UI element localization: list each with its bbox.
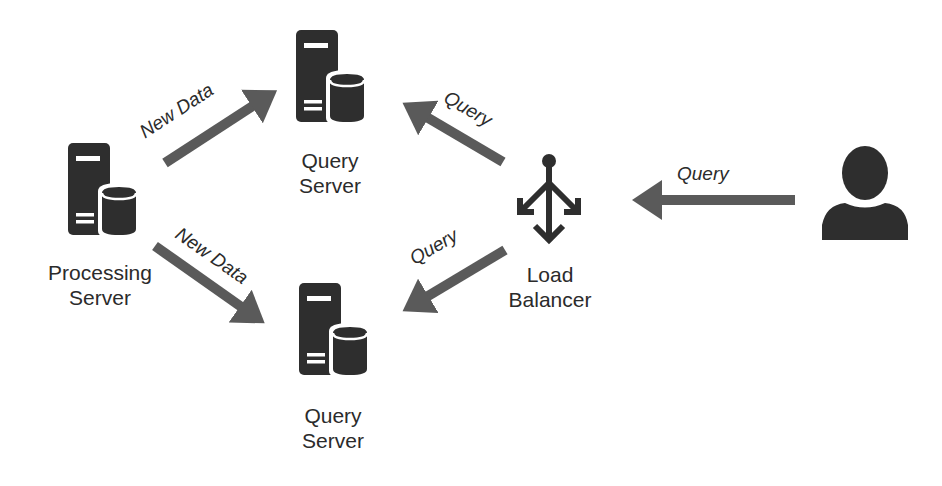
query-server-top-icon (296, 30, 368, 126)
query-server-bottom-label: Query Server (273, 403, 393, 453)
load-balancer-icon (520, 154, 578, 240)
edge-label-query-user: Query (677, 163, 729, 185)
diagram-svg (0, 0, 942, 486)
user-icon (822, 146, 908, 240)
processing-server-label: Processing Server (30, 260, 170, 310)
query-server-bottom-icon (299, 283, 371, 379)
diagram-canvas: Processing Server Query Server Query Ser… (0, 0, 942, 486)
load-balancer-label: Load Balancer (490, 262, 610, 312)
query-server-top-label: Query Server (270, 148, 390, 198)
processing-server-icon (68, 143, 140, 239)
